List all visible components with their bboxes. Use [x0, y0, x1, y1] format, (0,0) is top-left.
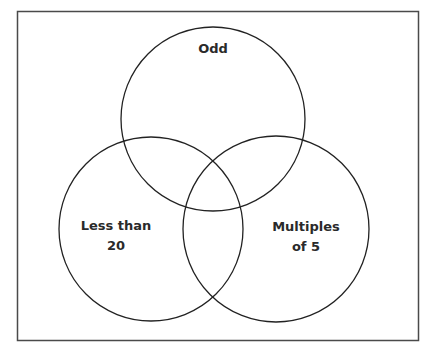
- label-less-than-20-line2: 20: [107, 238, 125, 253]
- label-multiples-of-5-line2: of 5: [292, 239, 320, 254]
- label-multiples-of-5-line1: Multiples: [272, 219, 340, 234]
- label-odd: Odd: [198, 41, 228, 56]
- venn-diagram: Odd Less than 20 Multiples of 5: [0, 0, 430, 347]
- label-less-than-20-line1: Less than: [81, 218, 152, 233]
